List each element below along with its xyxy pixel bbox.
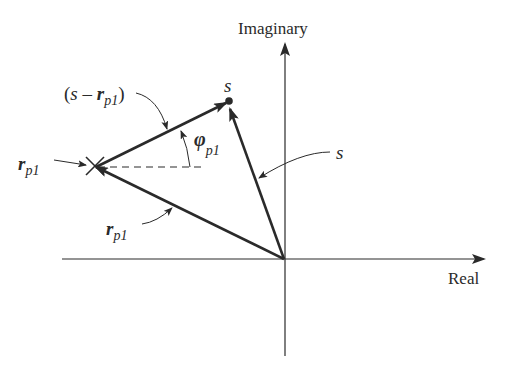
s-plane-vector-diagram: Imaginary Real s s (s – rp1) rp1 rp1 φp1 bbox=[0, 0, 515, 369]
label-vector-s: s bbox=[336, 142, 343, 163]
leader-s-minus-rp1 bbox=[136, 93, 167, 129]
angle-arc-phi bbox=[181, 131, 190, 167]
label-rp1-vector: rp1 bbox=[106, 218, 127, 243]
label-s-minus-rp1: (s – rp1) bbox=[64, 83, 124, 108]
leader-rp1-pole bbox=[54, 160, 86, 165]
real-axis-label: Real bbox=[448, 269, 479, 288]
pole-x-icon bbox=[86, 157, 104, 175]
point-s bbox=[225, 97, 233, 105]
leader-s-vector bbox=[259, 152, 330, 178]
label-point-s: s bbox=[224, 75, 231, 96]
leader-rp1-vector bbox=[142, 208, 172, 224]
label-rp1-pole: rp1 bbox=[18, 153, 39, 178]
imaginary-axis-label: Imaginary bbox=[238, 19, 308, 38]
label-phi-p1: φp1 bbox=[194, 128, 220, 158]
